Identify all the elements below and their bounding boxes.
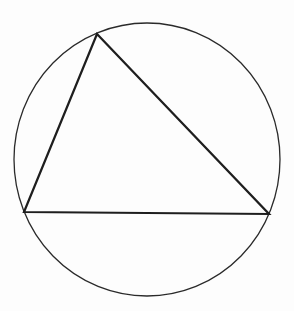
inscribed-triangle-diagram: [0, 0, 294, 311]
background: [0, 0, 294, 311]
